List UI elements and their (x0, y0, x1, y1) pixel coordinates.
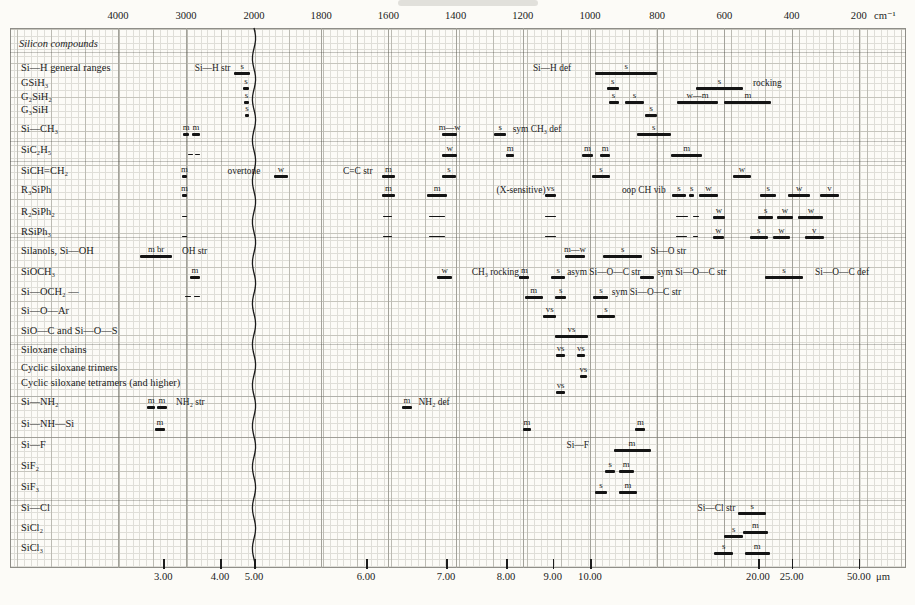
band-bar (645, 114, 657, 117)
intensity-label: s (599, 481, 602, 490)
row-label: SiCH=CH₂ (21, 165, 68, 176)
bottom-axis-tick-label: 25.00 (780, 572, 804, 583)
intensity-label: w—m (687, 91, 709, 100)
section-label: Silicon compounds (19, 39, 98, 49)
intensity-label: s (650, 104, 653, 113)
band-bar (724, 101, 771, 104)
intensity-label: m br (148, 245, 164, 254)
intensity-label: s (604, 305, 607, 314)
intensity-label: m (159, 396, 166, 405)
band-bar-weak (194, 296, 200, 297)
spectral-correlation-chart-page: Silicon compounds cm⁻¹ μm 40003000200018… (0, 0, 915, 605)
grid-section-line (10, 52, 906, 53)
band-bar (382, 194, 395, 197)
band-bar (382, 175, 395, 178)
band-annotation: Si—Cl str (698, 504, 736, 513)
band-annotation: C=C str (343, 167, 373, 176)
band-bar (157, 406, 167, 409)
intensity-label: s (245, 91, 248, 100)
band-bar (777, 216, 794, 219)
intensity-label: s (599, 165, 602, 174)
intensity-label: m (434, 184, 441, 193)
intensity-label: m (744, 91, 751, 100)
top-axis-tick-label: 4000 (107, 11, 128, 22)
row-label: Si—H general ranges (21, 62, 110, 73)
band-bar (689, 194, 694, 197)
grid-major-vline (388, 28, 389, 568)
band-bar (442, 133, 457, 136)
bottom-axis-tick-mark (163, 559, 165, 569)
grid-section-line (10, 396, 906, 397)
band-bar (640, 276, 653, 279)
band-bar (609, 101, 619, 104)
intensity-label: s (722, 542, 725, 551)
grid-major-vline (186, 28, 187, 568)
grid-section-line (10, 161, 906, 162)
top-axis-tick-label: 2000 (243, 11, 264, 22)
intensity-label: w (716, 206, 722, 215)
top-axis-tick-label: 1800 (311, 11, 332, 22)
intensity-label: s (498, 123, 501, 132)
band-bar (555, 296, 567, 299)
row-label: Si—OCH₂ — (21, 286, 79, 297)
band-bar (580, 375, 587, 378)
intensity-label: w (447, 144, 453, 153)
band-bar (190, 276, 200, 279)
row-label: SiCl₂ (21, 522, 43, 533)
row-label: RSiPh₃ (21, 226, 51, 237)
intensity-label: m (148, 396, 155, 405)
band-bar-weak (693, 216, 700, 217)
band-bar (805, 236, 824, 239)
row-label: GSiH₃ (21, 77, 48, 88)
band-bar (543, 315, 556, 318)
band-bar (592, 175, 611, 178)
band-bar (593, 296, 608, 299)
intensity-label: m (602, 144, 609, 153)
top-axis-tick-label: 1000 (579, 11, 600, 22)
intensity-label: m (637, 418, 644, 427)
band-bar (625, 101, 644, 104)
band-bar-weak (545, 216, 557, 217)
band-annotation: rocking (753, 79, 782, 88)
band-bar (635, 428, 645, 431)
intensity-label: w (796, 184, 802, 193)
band-bar (743, 531, 768, 534)
band-annotation: NH₂ def (419, 398, 450, 407)
top-axis-tick-label: 400 (784, 11, 800, 22)
intensity-label: m (181, 165, 188, 174)
intensity-label: m (754, 542, 761, 551)
intensity-label: vs (557, 344, 565, 353)
intensity-label: m (623, 460, 630, 469)
intensity-label: m—w (439, 123, 461, 132)
band-bar-weak (188, 154, 193, 155)
top-axis-tick-label: 200 (851, 11, 867, 22)
bottom-axis-tick-label: 50.00 (847, 572, 871, 583)
bottom-axis-tick-label: 20.00 (746, 572, 770, 583)
band-bar (555, 335, 589, 338)
intensity-label: m (192, 266, 199, 275)
top-axis-tick-label: 800 (649, 11, 665, 22)
band-bar-weak (429, 216, 446, 217)
band-bar-weak (545, 236, 557, 237)
grid-major-vline (118, 28, 119, 568)
intensity-label: w (778, 226, 784, 235)
band-bar (724, 535, 743, 538)
bottom-axis-tick-label: 5.00 (245, 572, 264, 583)
intensity-label: s (240, 62, 243, 71)
intensity-label: s (608, 460, 611, 469)
grid-major-vline (590, 28, 591, 568)
band-annotation: sym Si—O—C str (612, 288, 681, 297)
band-bar (577, 354, 585, 357)
band-bar (773, 236, 790, 239)
top-axis-tick-label: 600 (716, 11, 732, 22)
row-label: G₃SiH (21, 104, 48, 115)
intensity-label: m (752, 521, 759, 530)
intensity-label: w (739, 165, 745, 174)
band-bar (798, 216, 823, 219)
band-annotation: asym Si—O—C str (567, 268, 640, 277)
band-annotation: Si—H str (195, 64, 231, 73)
row-label: R₂SiPh₂ (21, 206, 55, 217)
top-axis-unit-label: cm⁻¹ (874, 11, 896, 22)
intensity-label: w (715, 226, 721, 235)
intensity-label: s (611, 77, 614, 86)
